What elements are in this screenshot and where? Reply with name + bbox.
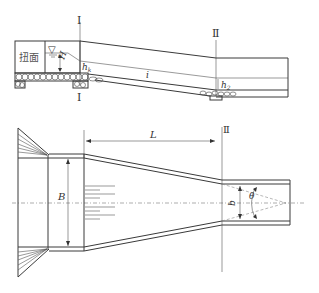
end-width-arrow-up [238, 186, 242, 191]
plan-section-2-label: Ⅱ [223, 124, 230, 135]
left-wing-walls [18, 128, 49, 277]
chute-top-wall [80, 41, 216, 58]
width-arrow-up [66, 159, 70, 164]
section-1-bottom-label: Ⅰ [77, 91, 81, 104]
length-label: L [149, 129, 157, 140]
end-width-label: b [227, 200, 237, 206]
chute-diagram: Ⅰ Ⅰ Ⅱ 扭面 ▽ H hk i [0, 0, 319, 293]
profile-view: Ⅰ Ⅰ Ⅱ 扭面 ▽ H hk i [15, 14, 288, 104]
head-arrow-down [58, 68, 62, 72]
head-label: H [56, 50, 68, 62]
warped-surface-label: 扭面 [19, 51, 39, 63]
step-hatch [85, 186, 115, 219]
water-surface-icon: ▽ [48, 44, 56, 55]
slope-label: i [146, 70, 149, 80]
end-depth-label: h2 [221, 80, 231, 91]
chute-wall-bottom-outer [84, 225, 222, 251]
critical-depth-label: hk [82, 62, 92, 73]
chute-wall-top-outer [84, 154, 222, 180]
chute-wall-bottom-inner [84, 221, 222, 247]
width-arrow-down [66, 241, 70, 246]
upstream-riprap [15, 73, 103, 88]
length-arrow-left [86, 139, 91, 143]
chute-wall-top-inner [84, 158, 222, 184]
plan-view: L Ⅱ B [12, 124, 306, 277]
section-2-top-label: Ⅱ [212, 27, 219, 40]
length-arrow-right [210, 139, 215, 143]
angle-label: θ [249, 191, 255, 201]
section-1-top-label: Ⅰ [77, 14, 81, 27]
width-label: B [57, 191, 65, 202]
